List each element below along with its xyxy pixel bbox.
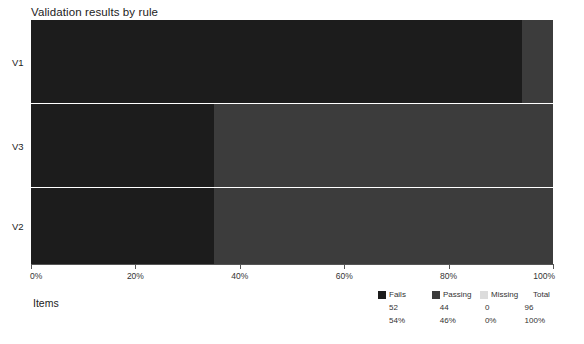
x-axis-tick — [553, 264, 554, 269]
legend: Fails Passing Missing Total 52 44 0 96 5… — [378, 288, 556, 327]
count-passing: 44 — [429, 303, 474, 312]
legend-item-missing[interactable]: Missing — [480, 290, 522, 299]
bar-row[interactable] — [31, 188, 553, 264]
legend-item-fails[interactable]: Fails — [378, 290, 432, 299]
x-axis-title: Items — [33, 297, 59, 309]
x-axis-tick — [449, 264, 450, 269]
count-fails: 52 — [378, 303, 429, 312]
percent-fails: 54% — [378, 316, 429, 325]
count-total: 96 — [514, 303, 556, 312]
legend-item-total: Total — [522, 290, 556, 299]
legend-swatch-passing-icon — [432, 291, 440, 299]
x-axis-tick — [135, 264, 136, 269]
x-axis-tick — [31, 264, 32, 269]
bar-segment-fails[interactable] — [31, 104, 214, 187]
legend-label-missing: Missing — [491, 290, 518, 299]
legend-percents-row: 54% 46% 0% 100% — [378, 314, 556, 327]
x-axis-tick-label: 40% — [231, 271, 248, 281]
legend-counts-row: 52 44 0 96 — [378, 301, 556, 314]
legend-label-fails: Fails — [389, 290, 406, 299]
category-label-v1: V1 — [12, 57, 24, 68]
bar-segment-passing[interactable] — [214, 188, 553, 264]
validation-results-chart: Validation results by rule V1 V3 V2 0%20… — [0, 0, 584, 344]
x-axis-tick-label: 0% — [30, 271, 42, 281]
percent-total: 100% — [514, 316, 556, 325]
x-axis-tick-label: 80% — [440, 271, 457, 281]
legend-item-passing[interactable]: Passing — [432, 290, 480, 299]
x-axis-tick — [344, 264, 345, 269]
count-missing: 0 — [474, 303, 514, 312]
bar-row[interactable] — [31, 20, 553, 103]
legend-swatch-fails-icon — [378, 291, 386, 299]
x-axis-tick-label: 20% — [127, 271, 144, 281]
x-axis-line — [31, 264, 554, 265]
legend-swatch-total-icon — [522, 291, 530, 299]
legend-label-total: Total — [533, 290, 550, 299]
percent-passing: 46% — [429, 316, 474, 325]
x-axis-tick-label: 60% — [336, 271, 353, 281]
bar-segment-passing[interactable] — [214, 104, 553, 187]
x-axis-tick-label: 100% — [533, 271, 555, 281]
x-axis-tick — [240, 264, 241, 269]
legend-header-row: Fails Passing Missing Total — [378, 288, 556, 301]
legend-swatch-missing-icon — [480, 291, 488, 299]
category-label-v3: V3 — [12, 141, 24, 152]
bar-segment-fails[interactable] — [31, 20, 522, 103]
category-label-v2: V2 — [12, 221, 24, 232]
chart-title: Validation results by rule — [31, 6, 158, 18]
bar-row[interactable] — [31, 104, 553, 187]
bar-segment-fails[interactable] — [31, 188, 214, 264]
percent-missing: 0% — [474, 316, 514, 325]
legend-label-passing: Passing — [443, 290, 471, 299]
plot-area — [31, 20, 553, 264]
bar-segment-passing[interactable] — [522, 20, 553, 103]
